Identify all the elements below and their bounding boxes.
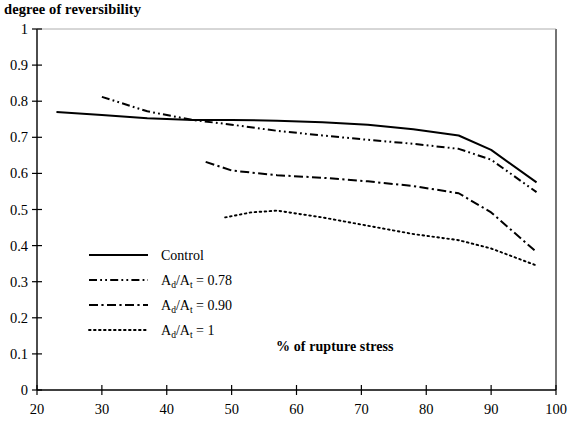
- x-tick-label: 50: [224, 401, 239, 417]
- axis-tick-labels: 00.10.20.30.40.50.60.70.80.9120304050607…: [10, 21, 567, 417]
- x-tick-label: 90: [484, 401, 499, 417]
- y-tick-label: 0.2: [10, 310, 28, 326]
- series-line-0: [56, 112, 536, 182]
- x-tick-label: 40: [160, 401, 175, 417]
- reversibility-chart: degree of reversibility % of rupture str…: [0, 0, 574, 429]
- y-tick-label: 0.7: [10, 129, 28, 145]
- series-line-3: [225, 211, 536, 266]
- x-tick-label: 30: [95, 401, 110, 417]
- legend-label-2: Ad/At = 0.90: [161, 298, 232, 315]
- y-tick-label: 0.8: [10, 93, 28, 109]
- legend-label-1: Ad/At = 0.78: [161, 273, 232, 290]
- chart-canvas: 00.10.20.30.40.50.60.70.80.9120304050607…: [0, 0, 574, 429]
- x-tick-label: 100: [545, 401, 567, 417]
- series-line-2: [206, 162, 537, 252]
- data-series: [56, 97, 536, 266]
- y-tick-label: 1: [21, 21, 28, 37]
- axes: [37, 29, 556, 390]
- x-tick-label: 70: [354, 401, 369, 417]
- y-tick-label: 0.6: [10, 165, 28, 181]
- legend-label-3: Ad/At = 1: [161, 323, 214, 340]
- y-tick-label: 0.4: [10, 238, 29, 254]
- axis-ticks: [32, 29, 556, 395]
- y-tick-label: 0.5: [10, 202, 28, 218]
- x-tick-label: 80: [419, 401, 434, 417]
- x-tick-label: 60: [289, 401, 304, 417]
- y-tick-label: 0.1: [10, 346, 28, 362]
- y-tick-label: 0.9: [10, 57, 28, 73]
- legend-label-0: Control: [161, 248, 204, 263]
- y-tick-label: 0.3: [10, 274, 28, 290]
- x-tick-label: 20: [30, 401, 45, 417]
- y-tick-label: 0: [21, 382, 28, 398]
- chart-legend: ControlAd/At = 0.78Ad/At = 0.90Ad/At = 1: [89, 248, 232, 340]
